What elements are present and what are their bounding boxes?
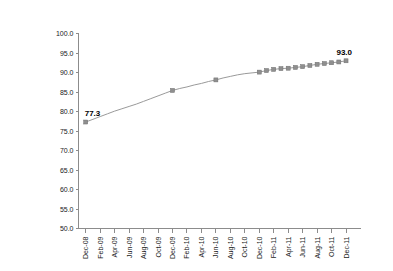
x-axis-tick-label: Jun-09 [126,236,133,258]
data-point-marker [286,66,290,70]
y-axis-tick-label: 60.0 [60,186,74,193]
x-axis-tick-label: Aug-09 [140,236,148,259]
y-axis-tick-label: 100.0 [56,30,74,37]
x-axis-tick-label: Apr-10 [198,236,206,257]
data-point-value-label: 93.0 [336,48,352,57]
x-axis-tick-label: Dec-09 [169,236,176,259]
y-axis-tick-label: 85.0 [60,89,74,96]
x-axis-tick-label: Apr-09 [111,236,119,257]
data-point-marker [257,70,261,74]
y-axis-tick-label: 95.0 [60,50,74,57]
data-point-value-label: 77.3 [85,109,101,118]
x-axis-tick-label: Aug-11 [314,236,322,258]
data-point-marker [171,88,175,92]
data-point-marker [330,61,334,65]
x-axis-tick-label: Aug-10 [227,236,235,259]
y-axis-tick-label: 65.0 [60,167,74,174]
y-axis: 100.095.090.085.080.075.070.065.060.055.… [56,30,79,232]
data-point-marker [308,63,312,67]
data-point-marker [344,59,348,63]
data-point-marker [84,120,88,124]
x-axis-tick-label: Dec-10 [256,236,263,259]
x-axis-tick-label: Jun-11 [299,236,306,257]
data-point-marker [301,65,305,69]
data-point-marker [315,62,319,66]
data-point-marker [337,60,341,64]
x-axis-tick-label: Dec-08 [82,236,89,259]
x-axis: Dec-08Feb-09Apr-09Jun-09Aug-09Oct-09Dec-… [79,229,361,260]
x-axis-tick-label: Feb-10 [183,236,190,258]
data-point-marker [279,67,283,71]
x-axis-tick-label: Dec-11 [343,236,350,258]
y-axis-tick-label: 75.0 [60,128,74,135]
data-series [84,59,348,124]
y-axis-tick-label: 55.0 [60,206,74,213]
x-axis-tick-label: Oct-11 [328,236,335,257]
y-axis-tick-label: 70.0 [60,147,74,154]
x-axis-tick-label: Oct-10 [241,236,248,257]
data-point-marker [293,65,297,69]
line-chart: 100.095.090.085.080.075.070.065.060.055.… [0,0,393,271]
data-point-marker [322,62,326,66]
series-line [86,61,346,122]
data-point-marker [272,67,276,71]
y-axis-tick-label: 50.0 [60,225,74,232]
x-axis-tick-label: Feb-11 [270,236,277,258]
x-axis-tick-label: Feb-09 [97,236,104,258]
data-point-marker [214,78,218,82]
chart-canvas: 100.095.090.085.080.075.070.065.060.055.… [0,0,393,271]
x-axis-tick-label: Oct-09 [155,236,162,257]
data-point-marker [265,69,269,73]
x-axis-tick-label: Jun-10 [212,236,219,258]
y-axis-tick-label: 90.0 [60,69,74,76]
x-axis-tick-label: Apr-11 [285,236,293,257]
y-axis-tick-label: 80.0 [60,108,74,115]
